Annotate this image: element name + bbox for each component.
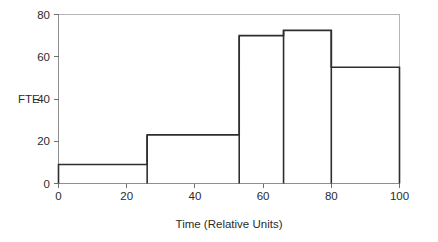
x-tick-label-40: 40	[189, 190, 202, 202]
x-tick-label-0: 0	[55, 190, 61, 202]
x-axis-title: Time (Relative Units)	[176, 218, 283, 230]
histogram-chart: 80 60 40 20 0 FTE 0 20 40 60 80 100	[0, 0, 438, 242]
x-tick-label-100: 100	[390, 190, 409, 202]
y-tick-label-20: 20	[37, 135, 50, 147]
y-tick-label-60: 60	[37, 51, 50, 63]
histogram-bar	[147, 135, 239, 184]
x-tick-label-80: 80	[325, 190, 338, 202]
x-tick-label-60: 60	[257, 190, 270, 202]
y-tick-label-0: 0	[44, 178, 50, 190]
y-axis-title: FTE	[18, 93, 40, 105]
histogram-bar	[59, 164, 148, 183]
histogram-bar	[331, 67, 399, 183]
chart-figure: 80 60 40 20 0 FTE 0 20 40 60 80 100	[0, 0, 438, 242]
x-tick-label-20: 20	[120, 190, 133, 202]
histogram-bar	[239, 36, 283, 184]
y-tick-label-80: 80	[37, 9, 50, 21]
histogram-bar	[284, 30, 332, 183]
